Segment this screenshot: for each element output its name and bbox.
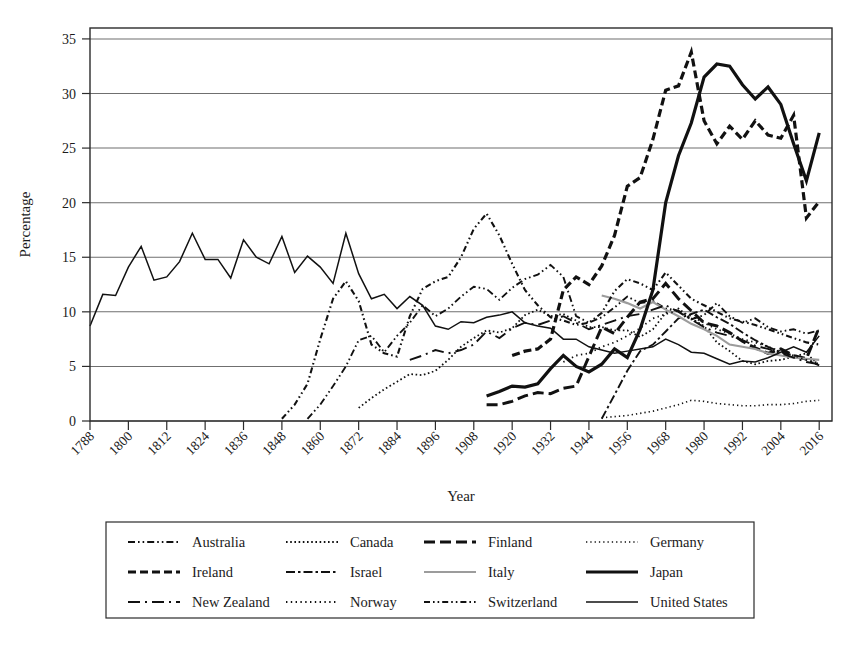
y-tick-label-10: 10 (62, 305, 76, 320)
gridlines (90, 39, 832, 421)
x-tick-label-1788: 1788 (67, 428, 97, 458)
x-tick-label-1992: 1992 (720, 429, 750, 459)
x-tick-label-1824: 1824 (183, 428, 213, 458)
x-axis: 1788180018121824183618481860187218841896… (67, 421, 826, 458)
y-axis-title: Percentage (17, 191, 33, 257)
legend-label-ireland: Ireland (192, 564, 234, 580)
x-tick-label-2016: 2016 (797, 428, 827, 458)
figure-container: 0510152025303517881800181218241836184818… (0, 0, 859, 646)
legend-label-canada: Canada (350, 534, 394, 550)
plot-frame (90, 28, 832, 421)
x-tick-label-1884: 1884 (374, 428, 404, 458)
y-tick-label-25: 25 (62, 141, 76, 156)
y-tick-label-0: 0 (69, 414, 76, 429)
legend-label-japan: Japan (650, 564, 684, 580)
series-line-new-zealand (410, 305, 819, 364)
x-tick-label-1908: 1908 (451, 428, 481, 458)
x-tick-label-1836: 1836 (221, 428, 251, 458)
x-tick-label-1968: 1968 (643, 428, 673, 458)
legend-label-new-zealand: New Zealand (192, 594, 270, 610)
x-tick-label-1860: 1860 (298, 428, 328, 458)
legend-label-switzerland: Switzerland (488, 594, 558, 610)
x-tick-label-1872: 1872 (336, 429, 366, 459)
y-tick-label-35: 35 (62, 32, 76, 47)
x-tick-label-1956: 1956 (605, 428, 635, 458)
series-line-switzerland (282, 214, 819, 419)
series-line-united-states (90, 233, 819, 364)
x-tick-label-2004: 2004 (758, 428, 788, 458)
legend-label-finland: Finland (488, 534, 533, 550)
x-tick-label-1944: 1944 (566, 428, 596, 458)
line-chart: 0510152025303517881800181218241836184818… (0, 0, 859, 646)
series-line-germany (602, 400, 819, 417)
series-line-israel (602, 310, 819, 419)
series-group (90, 52, 819, 419)
x-tick-label-1896: 1896 (413, 428, 443, 458)
series-line-canada (359, 309, 820, 408)
y-axis: 05101520253035 (62, 32, 90, 429)
legend-label-israel: Israel (350, 564, 382, 580)
legend-label-united-states: United States (650, 594, 728, 610)
x-tick-label-1980: 1980 (681, 428, 711, 458)
y-tick-label-20: 20 (62, 196, 76, 211)
x-tick-label-1848: 1848 (259, 428, 289, 458)
x-tick-label-1812: 1812 (144, 429, 174, 459)
legend-label-norway: Norway (350, 594, 397, 610)
x-tick-label-1800: 1800 (106, 428, 136, 458)
x-tick-label-1920: 1920 (490, 428, 520, 458)
legend-label-australia: Australia (192, 534, 246, 550)
x-tick-label-1932: 1932 (528, 429, 558, 459)
y-tick-label-15: 15 (62, 250, 76, 265)
legend-label-germany: Germany (650, 534, 705, 550)
legend-label-italy: Italy (488, 564, 515, 580)
y-tick-label-5: 5 (69, 359, 76, 374)
x-axis-title: Year (447, 488, 475, 504)
y-tick-label-30: 30 (62, 87, 76, 102)
